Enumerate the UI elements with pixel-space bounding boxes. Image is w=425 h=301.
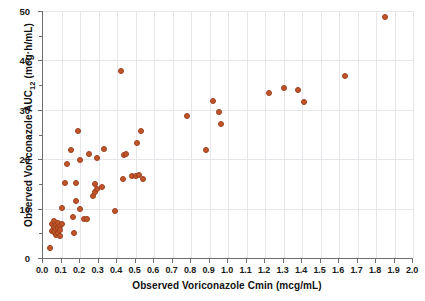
scatter-point bbox=[59, 205, 65, 211]
x-tick-mark bbox=[79, 259, 80, 263]
x-tick-mark bbox=[394, 259, 395, 263]
x-tick-label: 0.1 bbox=[55, 265, 67, 275]
scatter-point bbox=[86, 151, 92, 157]
plot-area bbox=[42, 11, 413, 259]
x-tick-mark bbox=[98, 259, 99, 263]
scatter-point bbox=[71, 230, 77, 236]
x-tick-label: 0.5 bbox=[129, 265, 141, 275]
x-tick-label: 1.8 bbox=[369, 265, 381, 275]
y-axis-title: Observed Voriconazole AUC12 (mcg·h/mL) bbox=[23, 0, 37, 265]
scatter-point bbox=[218, 121, 224, 127]
x-tick-mark bbox=[412, 259, 413, 263]
x-tick-label: 1.5 bbox=[314, 265, 326, 275]
x-tick-label: 1.3 bbox=[277, 265, 289, 275]
y-tick-mark bbox=[38, 209, 42, 210]
scatter-point bbox=[101, 146, 107, 152]
y-axis-title-suffix: (mcg·h/mL) bbox=[23, 23, 34, 81]
x-tick-label: 1.6 bbox=[332, 265, 344, 275]
scatter-point bbox=[184, 113, 190, 119]
x-tick-label: 2.0 bbox=[406, 265, 418, 275]
x-tick-label: 0.0 bbox=[36, 265, 48, 275]
scatter-point bbox=[118, 68, 124, 74]
scatter-point bbox=[120, 176, 126, 182]
x-tick-label: 0.9 bbox=[203, 265, 215, 275]
x-tick-mark bbox=[172, 259, 173, 263]
y-minor-tick-mark bbox=[39, 233, 42, 234]
scatter-point bbox=[70, 214, 76, 220]
scatter-point bbox=[140, 176, 146, 182]
y-tick-mark bbox=[38, 258, 42, 259]
x-tick-mark bbox=[357, 259, 358, 263]
x-tick-mark bbox=[61, 259, 62, 263]
scatter-point bbox=[134, 140, 140, 146]
y-minor-tick-mark bbox=[39, 135, 42, 136]
scatter-point bbox=[68, 147, 74, 153]
y-axis-title-subscript: 12 bbox=[28, 81, 37, 90]
scatter-point bbox=[73, 180, 79, 186]
scatter-point bbox=[382, 14, 388, 20]
y-tick-mark bbox=[38, 11, 42, 12]
x-tick-mark bbox=[153, 259, 154, 263]
x-tick-mark bbox=[209, 259, 210, 263]
scatter-point bbox=[84, 216, 90, 222]
y-minor-tick-mark bbox=[39, 85, 42, 86]
scatter-point bbox=[210, 98, 216, 104]
scatter-point bbox=[94, 155, 100, 161]
x-tick-mark bbox=[264, 259, 265, 263]
scatter-point bbox=[75, 128, 81, 134]
x-axis-title: Observed Voriconazole Cmin (mcg/mL) bbox=[42, 280, 412, 291]
x-tick-mark bbox=[135, 259, 136, 263]
x-tick-label: 0.2 bbox=[73, 265, 85, 275]
scatter-point bbox=[47, 245, 53, 251]
x-tick-label: 1.2 bbox=[258, 265, 270, 275]
scatter-point bbox=[281, 85, 287, 91]
x-tick-mark bbox=[301, 259, 302, 263]
scatter-point bbox=[99, 184, 105, 190]
y-tick-mark bbox=[38, 159, 42, 160]
y-tick-mark bbox=[38, 60, 42, 61]
y-minor-tick-mark bbox=[39, 36, 42, 37]
x-axis-ticks: 0.00.10.20.30.40.50.60.70.80.91.01.11.21… bbox=[42, 259, 412, 264]
scatter-point bbox=[57, 233, 63, 239]
x-tick-label: 0.7 bbox=[166, 265, 178, 275]
x-tick-mark bbox=[320, 259, 321, 263]
scatter-point bbox=[62, 180, 68, 186]
x-tick-label: 0.8 bbox=[184, 265, 196, 275]
x-tick-label: 1.0 bbox=[221, 265, 233, 275]
scatter-point bbox=[64, 161, 70, 167]
scatter-point bbox=[266, 90, 272, 96]
x-tick-label: 1.1 bbox=[240, 265, 252, 275]
x-tick-mark bbox=[283, 259, 284, 263]
x-tick-mark bbox=[375, 259, 376, 263]
x-tick-label: 0.6 bbox=[147, 265, 159, 275]
x-tick-label: 1.4 bbox=[295, 265, 307, 275]
scatter-point bbox=[301, 99, 307, 105]
x-tick-mark bbox=[190, 259, 191, 263]
x-tick-label: 1.7 bbox=[351, 265, 363, 275]
scatter-point bbox=[123, 151, 129, 157]
y-minor-tick-mark bbox=[39, 184, 42, 185]
x-tick-label: 0.3 bbox=[92, 265, 104, 275]
vertical-gridline bbox=[413, 11, 414, 258]
scatter-point bbox=[203, 147, 209, 153]
scatter-point bbox=[73, 198, 79, 204]
x-tick-mark bbox=[42, 259, 43, 263]
x-tick-label: 1.9 bbox=[388, 265, 400, 275]
scatter-point bbox=[112, 208, 118, 214]
scatter-point bbox=[77, 157, 83, 163]
x-tick-mark bbox=[338, 259, 339, 263]
x-tick-label: 0.4 bbox=[110, 265, 122, 275]
scatter-point bbox=[342, 73, 348, 79]
scatter-point bbox=[77, 206, 83, 212]
x-tick-mark bbox=[227, 259, 228, 263]
y-axis-title-prefix: Observed Voriconazole AUC bbox=[23, 90, 34, 227]
scatter-chart-figure: 0.00.10.20.30.40.50.60.70.80.91.01.11.21… bbox=[0, 0, 425, 301]
scatter-point bbox=[138, 128, 144, 134]
x-tick-mark bbox=[116, 259, 117, 263]
scatter-point bbox=[59, 221, 65, 227]
data-points-layer bbox=[43, 11, 413, 258]
y-tick-mark bbox=[38, 110, 42, 111]
x-tick-mark bbox=[246, 259, 247, 263]
scatter-point bbox=[216, 109, 222, 115]
scatter-point bbox=[295, 87, 301, 93]
